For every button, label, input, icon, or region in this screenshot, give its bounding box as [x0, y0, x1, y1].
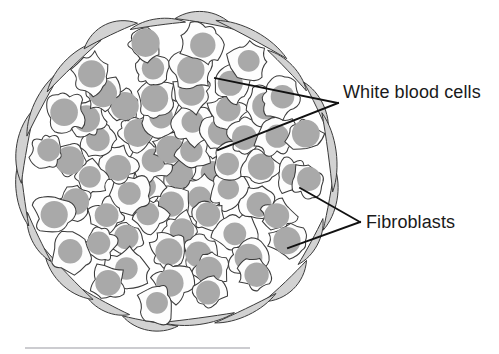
cell-nucleus — [58, 239, 82, 263]
cell-nucleus — [155, 238, 182, 265]
cell-nucleus — [244, 263, 268, 287]
cell-nucleus — [190, 32, 215, 57]
cell-nucleus — [79, 166, 101, 188]
cell-nucleus — [271, 85, 295, 109]
white-blood-cell-cluster — [29, 22, 325, 325]
white-blood-cell — [47, 93, 85, 133]
cell-nucleus — [216, 153, 239, 176]
cell-nucleus — [78, 60, 105, 87]
white-blood-cell — [29, 135, 61, 168]
cell-nucleus — [196, 281, 220, 305]
cell-nucleus — [232, 125, 257, 150]
cell-nucleus — [118, 182, 141, 205]
white-blood-cell — [262, 76, 300, 120]
cell-cluster-figure: White blood cells Fibroblasts — [0, 0, 499, 354]
white-blood-cell — [32, 197, 76, 232]
cell-nucleus — [41, 201, 68, 228]
cell-nucleus — [141, 85, 168, 112]
cell-nucleus — [196, 202, 220, 226]
cell-nucleus — [50, 99, 78, 127]
cell-nucleus — [264, 203, 289, 228]
cell-nucleus — [177, 56, 204, 83]
white-blood-cell — [137, 286, 171, 325]
cell-nucleus — [37, 139, 60, 162]
label-white-blood-cells: White blood cells — [343, 82, 481, 102]
cell-nucleus — [238, 50, 260, 72]
fibroblast — [322, 113, 337, 192]
cell-nucleus — [132, 29, 160, 57]
cell-nucleus — [95, 203, 119, 227]
cell-nucleus — [87, 232, 110, 255]
cell-nucleus — [114, 225, 138, 249]
white-blood-cell — [138, 82, 174, 118]
white-blood-cell — [192, 276, 227, 308]
cell-nucleus — [292, 120, 320, 148]
cell-nucleus — [218, 178, 239, 199]
white-blood-cell — [292, 165, 323, 199]
cell-nucleus — [146, 292, 168, 314]
fibroblast — [130, 18, 186, 29]
cell-nucleus — [266, 125, 289, 148]
cell-nucleus — [95, 270, 121, 296]
label-fibroblasts: Fibroblasts — [366, 212, 455, 232]
cell-nucleus — [273, 227, 300, 254]
cell-nucleus — [248, 153, 275, 180]
